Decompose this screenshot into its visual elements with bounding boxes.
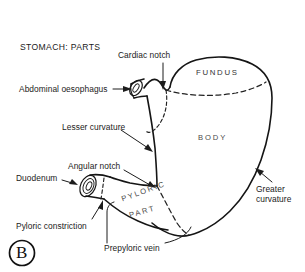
figure-title: STOMACH: PARTS [20,42,100,52]
label-greater-curvature-line2: curvature [256,194,291,204]
label-pyloric-constriction: Pyloric constriction [16,221,87,231]
label-greater-curvature: Greater curvature [256,184,305,204]
duodenum-arrowhead [69,179,78,185]
panel-letter: B [16,243,27,263]
stomach-parts-figure: STOMACH: PARTS Cardiac notch Abdominal o… [0,0,305,272]
abdominal-oesophagus-tube-lower [134,96,147,98]
oesophagus-cut-surface [127,78,145,98]
fundus-body-boundary [166,82,266,95]
label-prepyloric-vein: Prepyloric vein [104,243,160,253]
label-abdominal-oesophagus: Abdominal oesophagus [19,84,108,94]
oesophagus-lumen [132,83,141,93]
region-label-body: BODY [198,133,227,143]
region-label-fundus: FUNDUS [196,68,239,78]
label-angular-notch: Angular notch [68,161,120,171]
label-lesser-curvature: Lesser curvature [62,122,125,132]
lesser-curvature-outline [147,96,157,186]
duodenum-cut-surface-outer [77,173,100,199]
prepyloric-vein-leader [107,202,114,243]
label-greater-curvature-line1: Greater [256,184,285,194]
label-cardiac-notch: Cardiac notch [118,50,170,60]
lesser-curvature-arrowhead [144,144,153,152]
body-pyloric-boundary [157,186,189,235]
lesser-curvature-leader [121,130,148,148]
pyloric-constriction-boundary [101,178,104,199]
label-duodenum: Duodenum [16,173,57,183]
cardiac-notch-outline [144,79,170,90]
